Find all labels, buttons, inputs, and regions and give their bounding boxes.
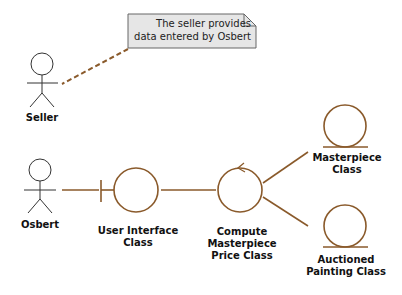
class-auctioned-label: Auctioned Painting Class bbox=[300, 254, 392, 278]
link-compute-masterpiece bbox=[263, 152, 308, 183]
class-masterpiece-label: Masterpiece Class bbox=[305, 152, 389, 176]
class-ui-label: User Interface Class bbox=[96, 225, 180, 249]
boundary-class-icon bbox=[101, 168, 158, 212]
note-connector bbox=[62, 49, 128, 84]
entity-class-auctioned-icon bbox=[323, 205, 368, 247]
control-class-icon bbox=[218, 163, 262, 212]
actor-seller-label: Seller bbox=[12, 112, 72, 124]
note-text: The seller provides data entered by Osbe… bbox=[131, 17, 251, 43]
link-compute-auctioned bbox=[263, 197, 308, 226]
actor-osbert-label: Osbert bbox=[10, 219, 70, 231]
class-compute-label: Compute Masterpiece Price Class bbox=[200, 226, 284, 262]
actor-seller-icon bbox=[27, 53, 58, 107]
entity-class-masterpiece-icon bbox=[323, 105, 368, 147]
actor-osbert-icon bbox=[24, 159, 56, 213]
